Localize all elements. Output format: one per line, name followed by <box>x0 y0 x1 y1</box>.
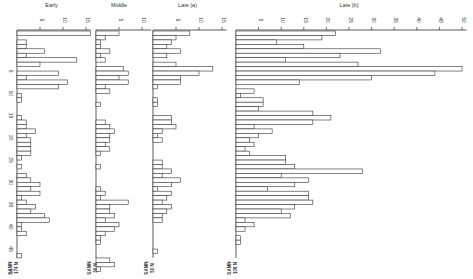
bar <box>153 129 162 133</box>
histogram-chart: 5101520253035404550Early51015SAMN174 NMi… <box>0 0 473 279</box>
bar <box>153 53 167 57</box>
bar <box>236 133 259 137</box>
bar <box>236 62 358 66</box>
bar <box>17 71 58 75</box>
bar <box>17 133 26 137</box>
bar <box>236 182 295 186</box>
bar <box>96 200 128 204</box>
bar <box>96 240 101 244</box>
bar <box>96 213 114 217</box>
bar <box>17 209 31 213</box>
bar <box>236 218 245 222</box>
bar <box>96 151 101 155</box>
bar <box>236 67 462 71</box>
bar <box>153 76 181 80</box>
bar <box>17 205 35 209</box>
bar <box>236 80 299 84</box>
bar <box>153 40 171 44</box>
bar <box>153 191 171 195</box>
bar <box>96 231 105 235</box>
bar <box>153 182 171 186</box>
bar <box>96 142 105 146</box>
bar <box>153 124 176 128</box>
bar <box>17 31 91 35</box>
bar <box>236 31 335 35</box>
bar <box>236 191 308 195</box>
row-tick-label: 10 <box>8 90 14 96</box>
panel-footer-label: SAMN <box>144 261 149 274</box>
bar <box>17 53 26 57</box>
row-tick-label: 30 <box>8 179 14 185</box>
bar <box>153 80 181 84</box>
bar <box>236 35 322 39</box>
bar <box>236 151 250 155</box>
bar <box>17 200 26 204</box>
bar <box>236 93 241 97</box>
bar <box>153 187 158 191</box>
bar <box>153 35 176 39</box>
x-tick-label: 25 <box>348 17 354 23</box>
bar <box>17 231 26 235</box>
bar <box>96 236 101 240</box>
bar <box>236 124 254 128</box>
bar <box>96 44 101 48</box>
bar <box>236 213 290 217</box>
bar <box>153 169 171 173</box>
bar <box>96 129 114 133</box>
bar <box>17 178 31 182</box>
bar <box>236 160 286 164</box>
bar <box>96 35 105 39</box>
bar <box>153 160 162 164</box>
bar <box>96 76 119 80</box>
x-tick-label: 5 <box>39 19 45 22</box>
bar <box>96 222 119 226</box>
bar <box>153 67 213 71</box>
x-tick-label: 10 <box>198 17 204 23</box>
bar <box>236 205 295 209</box>
x-tick-label: 30 <box>371 17 377 23</box>
bar <box>17 93 22 97</box>
bar <box>96 71 128 75</box>
bar <box>236 116 331 120</box>
x-tick-label: 20 <box>325 17 331 23</box>
bar <box>96 102 101 106</box>
bar <box>236 102 263 106</box>
bar <box>96 191 105 195</box>
x-tick-label: 15 <box>221 17 227 23</box>
bar <box>17 44 26 48</box>
panel-middle: Middle510SAMN30 N <box>87 2 151 275</box>
x-tick-label: 45 <box>438 17 444 23</box>
bar <box>153 62 176 66</box>
x-tick-label: 40 <box>416 17 422 23</box>
x-tick-label: 15 <box>303 17 309 23</box>
bar <box>236 49 381 53</box>
bar <box>236 196 308 200</box>
bar <box>236 209 281 213</box>
bar <box>17 124 26 128</box>
bar <box>153 102 158 106</box>
bar <box>96 209 110 213</box>
panel-late-b: Late (b)5101520253035404550SAMN108 N <box>227 2 467 275</box>
bar <box>17 173 26 177</box>
bar <box>17 49 45 53</box>
panel-footer-label: SAMN <box>227 261 232 274</box>
bar <box>236 222 254 226</box>
bar <box>153 49 181 53</box>
bar <box>96 53 101 57</box>
bar <box>153 173 162 177</box>
bar <box>96 49 110 53</box>
bar <box>236 76 372 80</box>
bar <box>17 40 26 44</box>
bar <box>17 191 40 195</box>
bar <box>236 129 272 133</box>
panel-title: Middle <box>111 2 127 8</box>
bar <box>96 262 114 266</box>
x-tick-label: 5 <box>175 19 181 22</box>
x-tick-label: 10 <box>62 17 68 23</box>
bar <box>153 249 158 253</box>
bar <box>96 80 128 84</box>
bar <box>153 31 190 35</box>
panel-footer-label: 174 N <box>14 262 19 274</box>
bar <box>17 120 26 124</box>
panel-early: Early51015SAMN174 N <box>8 2 91 275</box>
